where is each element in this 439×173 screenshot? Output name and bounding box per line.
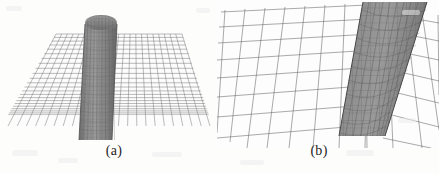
panel-a-rendering <box>0 0 216 148</box>
panel-a-caption: (a) <box>84 143 144 160</box>
figure-panel-a <box>0 0 216 148</box>
figure-container: (a) (b) <box>0 0 439 173</box>
figure-panel-b <box>217 0 439 148</box>
panel-b-caption: (b) <box>289 143 349 160</box>
cylinder-a <box>79 15 117 140</box>
panel-b-rendering <box>217 0 439 148</box>
